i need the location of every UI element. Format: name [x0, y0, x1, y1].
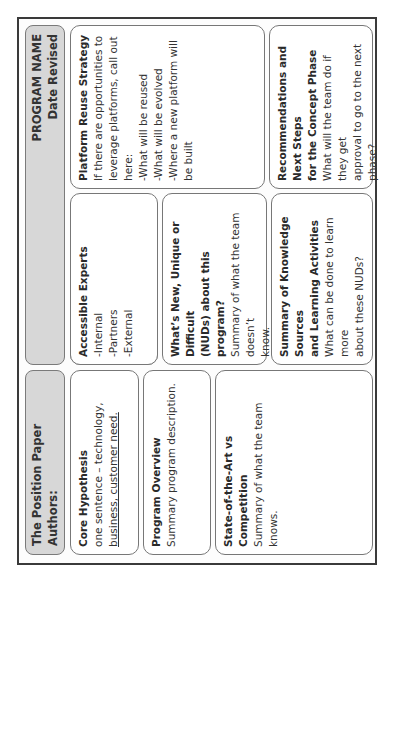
- card-title: State-of-the-Art vs: [221, 378, 236, 547]
- card-text: -Partners: [106, 201, 121, 357]
- card-title: Recommendations and Next Steps: [275, 33, 305, 181]
- card-text: leverage platforms, call out here:: [106, 33, 136, 181]
- card-text: knows.: [266, 378, 281, 547]
- card-text: about these NUDs?: [352, 201, 367, 357]
- card-platform-reuse: Platform Reuse Strategy If there are opp…: [70, 25, 265, 189]
- program-name: PROGRAM NAME: [29, 34, 45, 356]
- card-recommendations: Recommendations and Next Steps for the C…: [269, 25, 373, 189]
- card-core-hypothesis: Core Hypothesis one sentence – technolog…: [70, 370, 139, 555]
- card-text: If there are opportunities to: [91, 33, 106, 181]
- card-text: Summary program description.: [164, 378, 179, 547]
- card-whats-new: What’s New, Unique or Difficult (NUDs) a…: [162, 193, 267, 365]
- card-title: Program Overview: [149, 378, 164, 547]
- position-paper-page: The Position Paper Authors: PROGRAM NAME…: [17, 17, 377, 565]
- card-title: for the Concept Phase: [305, 33, 320, 181]
- authors-label: Authors:: [45, 379, 61, 546]
- card-title: Competition: [236, 378, 251, 547]
- card-text: -Internal: [91, 201, 106, 357]
- card-title: Core Hypothesis: [76, 378, 91, 547]
- card-text: business, customer need.: [106, 378, 121, 547]
- card-state-of-the-art: State-of-the-Art vs Competition Summary …: [215, 370, 373, 555]
- card-knowledge-sources: Summary of Knowledge Sources and Learnin…: [271, 193, 373, 365]
- card-title: What’s New, Unique or Difficult: [168, 201, 198, 357]
- card-title: Summary of Knowledge Sources: [277, 201, 307, 357]
- card-text: -What will be reused: [136, 33, 151, 181]
- card-title: Platform Reuse Strategy: [76, 33, 91, 181]
- document-title: The Position Paper: [29, 379, 45, 546]
- card-accessible-experts: Accessible Experts -Internal -Partners -…: [70, 193, 158, 365]
- card-program-overview: Program Overview Summary program descrip…: [143, 370, 211, 555]
- card-text: approval to go to the next phase?: [350, 33, 380, 181]
- card-text: -External: [121, 201, 136, 357]
- card-text: Summary of what the team doesn’t: [228, 201, 258, 357]
- card-title: (NUDs) about this program?: [198, 201, 228, 357]
- card-text: What can be done to learn more: [322, 201, 352, 357]
- date-revised: Date Revised: [45, 34, 61, 356]
- header-title-block: The Position Paper Authors:: [25, 370, 65, 555]
- card-text: What will the team do if they get: [320, 33, 350, 181]
- card-text: -Where a new platform will be built: [166, 33, 196, 181]
- card-title: Accessible Experts: [76, 201, 91, 357]
- header-program-block: PROGRAM NAME Date Revised: [25, 25, 65, 365]
- card-title: and Learning Activities: [307, 201, 322, 357]
- card-text: -What will be evolved: [151, 33, 166, 181]
- card-text: Summary of what the team: [251, 378, 266, 547]
- card-text: one sentence – technology,: [91, 378, 106, 547]
